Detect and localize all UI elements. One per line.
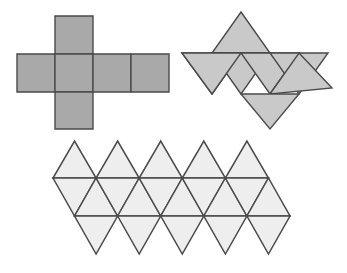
cube-face-right-square (93, 54, 131, 92)
cube-face-bottom-square (55, 92, 93, 129)
cube-face-far-right-square (131, 54, 169, 92)
cube-face-center-square (55, 54, 93, 92)
polyhedron-nets-diagram (0, 0, 347, 273)
cube-face-left-square (17, 54, 55, 92)
cube-face-top-square (55, 16, 93, 54)
